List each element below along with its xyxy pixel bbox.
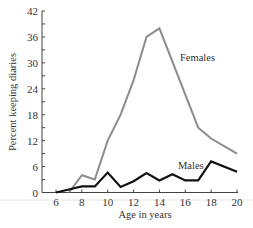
y-tick-label: 42 (27, 5, 38, 17)
y-tick-label: 24 (27, 83, 39, 95)
x-tick-label: 14 (154, 196, 166, 208)
x-axis-title: Age in years (118, 209, 171, 220)
y-tick-label: 12 (27, 135, 38, 147)
x-tick-label: 6 (53, 196, 59, 208)
y-axis-title: Percent keeping diaries (7, 53, 18, 151)
males-label: Males (178, 160, 204, 171)
x-tick-label: 20 (232, 196, 244, 208)
x-axis: 68101214161820 (42, 190, 243, 208)
line-chart: 06121824303642 68101214161820 Percent ke… (0, 0, 253, 228)
males-series-line (56, 161, 237, 192)
x-tick-label: 18 (206, 196, 218, 208)
x-tick-label: 12 (128, 196, 139, 208)
y-tick-label: 30 (27, 57, 39, 69)
y-tick-label: 36 (27, 31, 39, 43)
y-tick-label: 18 (27, 109, 39, 121)
y-tick-label: 6 (33, 161, 39, 173)
females-label: Females (180, 52, 215, 63)
y-tick-label: 0 (33, 187, 39, 199)
x-tick-label: 10 (102, 196, 114, 208)
y-axis: 06121824303642 (27, 5, 45, 199)
x-tick-label: 16 (180, 196, 192, 208)
x-tick-label: 8 (79, 196, 85, 208)
